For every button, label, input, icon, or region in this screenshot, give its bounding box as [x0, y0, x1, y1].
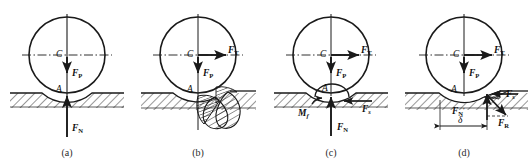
rolling-resistance-figure: C A FP FN (a) C A FT FP (b): [0, 0, 530, 167]
contact-point-label-a-b: A: [186, 84, 193, 94]
force-label-fp-c: FP: [335, 68, 346, 79]
center-label-c-c: C: [320, 49, 327, 59]
force-label-fp-a: FP: [71, 68, 82, 79]
panel-caption-a: (a): [61, 147, 72, 159]
contact-point-label-a-d: A: [450, 84, 457, 94]
panel-caption-c: (c): [325, 147, 336, 159]
force-label-ft-c: FT: [360, 45, 372, 56]
panel-c: C A FT FP Mf Fs FN (c): [274, 14, 388, 159]
panel-b: C A FT FP (b): [141, 14, 256, 159]
force-label-fr-d: FR: [497, 118, 509, 129]
force-label-fn-a: FN: [71, 123, 83, 134]
dimension-label-delta-d: δ: [458, 115, 463, 125]
panel-d: C A FT FP FN′ Fs FR δ (d): [405, 14, 528, 159]
panel-caption-b: (b): [192, 147, 204, 159]
contact-point-label-a-c: A: [321, 83, 328, 93]
figure-svg: C A FP FN (a) C A FT FP (b): [0, 0, 530, 167]
force-label-ft-b: FT: [227, 45, 239, 56]
panel-a: C A FP FN (a): [10, 14, 124, 159]
force-label-fn-c: FN: [336, 122, 348, 133]
panel-caption-d: (d): [458, 147, 470, 159]
force-label-fp-d: FP: [468, 68, 479, 79]
center-label-c-b: C: [187, 49, 194, 59]
force-label-ft-d: FT: [493, 45, 505, 56]
contact-point-label-a-a: A: [55, 84, 62, 94]
force-label-fp-b: FP: [202, 68, 213, 79]
center-label-c-a: C: [56, 49, 63, 59]
center-label-c-d: C: [453, 49, 460, 59]
moment-label-mf-c: Mf: [297, 108, 309, 119]
